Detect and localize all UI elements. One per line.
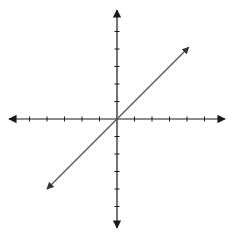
coordinate-plane xyxy=(0,0,230,235)
coordinate-plane-svg xyxy=(0,0,230,235)
data-series xyxy=(47,47,189,189)
line-y-equals-x xyxy=(47,47,189,189)
